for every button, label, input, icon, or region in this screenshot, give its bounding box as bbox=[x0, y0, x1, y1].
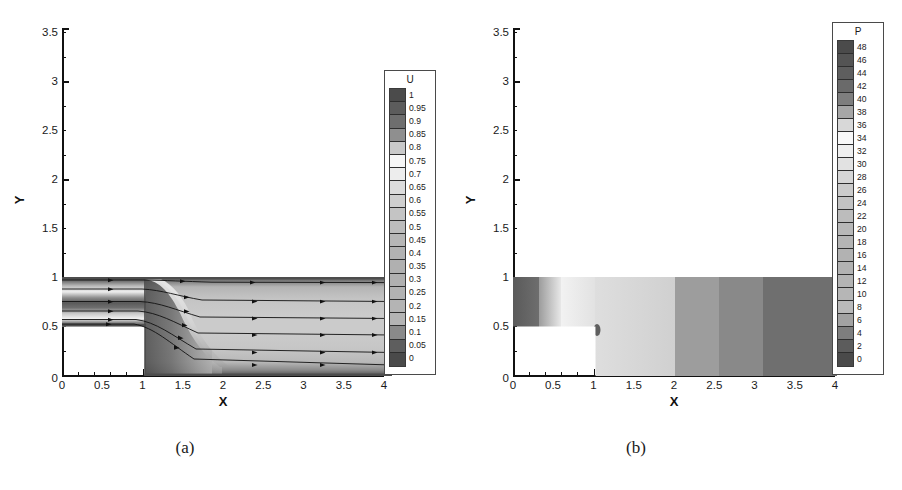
panel-a-x-axis-label: X bbox=[219, 394, 228, 409]
panel-a-ytick-2-5: 2.5 bbox=[34, 124, 58, 136]
colorbar-tick-label: 0.8 bbox=[409, 142, 421, 152]
panel-b-xtick-4: 4 bbox=[832, 379, 838, 391]
colorbar-tick-label: 46 bbox=[857, 55, 867, 65]
colorbar-swatch bbox=[390, 89, 405, 102]
colorbar-tick-label: 0 bbox=[857, 354, 862, 364]
colorbar-tick-label: 8 bbox=[857, 302, 862, 312]
colorbar-swatch bbox=[390, 274, 405, 287]
colorbar-tick-label: 2 bbox=[857, 341, 862, 351]
colorbar-tick-label: 34 bbox=[857, 133, 867, 143]
colorbar-swatch bbox=[390, 260, 405, 273]
panel-a-ytick-3: 3 bbox=[34, 75, 58, 87]
colorbar-swatch bbox=[838, 340, 853, 353]
colorbar-swatch bbox=[390, 221, 405, 234]
panel-b-ytick-1-5: 1.5 bbox=[485, 222, 509, 234]
panel-a-caption: (a) bbox=[176, 438, 195, 458]
colorbar-tick-label: 20 bbox=[857, 224, 867, 234]
colorbar-swatch bbox=[838, 132, 853, 145]
panel-a-xtick-3-5: 3.5 bbox=[336, 379, 352, 391]
colorbar-tick-label: 6 bbox=[857, 315, 862, 325]
colorbar-tick-label: 0.65 bbox=[409, 182, 426, 192]
colorbar-tick-label: 48 bbox=[857, 42, 867, 52]
colorbar-tick-label: 0.3 bbox=[409, 274, 421, 284]
colorbar-tick-label: 0.2 bbox=[409, 301, 421, 311]
colorbar-swatch bbox=[838, 119, 853, 132]
panel-b-ytick-0-5: 0.5 bbox=[485, 320, 509, 332]
panel-b-xtick-3: 3 bbox=[751, 379, 757, 391]
panel-b-xtick-0-5: 0.5 bbox=[545, 379, 561, 391]
panel-a-xtick-1-5: 1.5 bbox=[175, 379, 191, 391]
colorbar-swatch bbox=[838, 223, 853, 236]
colorbar-tick-label: 30 bbox=[857, 159, 867, 169]
colorbar-swatch bbox=[390, 195, 405, 208]
colorbar-swatch bbox=[838, 197, 853, 210]
colorbar-tick-label: 26 bbox=[857, 185, 867, 195]
colorbar-swatch bbox=[838, 67, 853, 80]
panel-b-x-axis-label: X bbox=[670, 394, 679, 409]
colorbar-swatch bbox=[390, 326, 405, 339]
colorbar-tick-label: 0.55 bbox=[409, 208, 426, 218]
colorbar-tick-label: 0.5 bbox=[409, 222, 421, 232]
panel-b-xtick-1-5: 1.5 bbox=[626, 379, 642, 391]
colorbar-tick-label: 0.4 bbox=[409, 248, 421, 258]
colorbar-tick-label: 0.6 bbox=[409, 195, 421, 205]
colorbar-tick-label: 0.05 bbox=[409, 340, 426, 350]
colorbar-tick-label: 0.15 bbox=[409, 314, 426, 324]
panel-a-y-axis-label: Y bbox=[12, 196, 27, 205]
colorbar-tick-label: 42 bbox=[857, 81, 867, 91]
panel-b-xtick-3-5: 3.5 bbox=[787, 379, 803, 391]
colorbar-tick-label: 0.1 bbox=[409, 327, 421, 337]
colorbar-swatch bbox=[838, 210, 853, 223]
colorbar-swatch bbox=[390, 313, 405, 326]
panel-b-colorbar-title: P bbox=[833, 26, 883, 37]
panel-b: 0 0.5 1 1.5 2 2.5 3 3.5 bbox=[451, 0, 902, 490]
panel-b-ytick-1: 1 bbox=[485, 271, 509, 283]
colorbar-tick-label: 12 bbox=[857, 276, 867, 286]
colorbar-tick-label: 0.85 bbox=[409, 129, 426, 139]
colorbar-tick-label: 1 bbox=[409, 90, 414, 100]
panel-b-ytick-0: 0 bbox=[485, 372, 509, 384]
colorbar-tick-label: 44 bbox=[857, 68, 867, 78]
colorbar-swatch bbox=[838, 145, 853, 158]
colorbar-tick-label: 0.75 bbox=[409, 156, 426, 166]
colorbar-tick-label: 16 bbox=[857, 250, 867, 260]
colorbar-tick-label: 0.95 bbox=[409, 103, 426, 113]
colorbar-swatch bbox=[390, 142, 405, 155]
colorbar-tick-label: 10 bbox=[857, 289, 867, 299]
panel-b-contour-field bbox=[513, 277, 837, 376]
colorbar-tick-label: 0.9 bbox=[409, 116, 421, 126]
panel-a-xtick-2: 2 bbox=[220, 379, 226, 391]
panel-b-xtick-1: 1 bbox=[590, 379, 596, 391]
colorbar-swatch bbox=[838, 93, 853, 106]
panel-a-ytick-1: 1 bbox=[34, 271, 58, 283]
panel-b-xtick-2-5: 2.5 bbox=[706, 379, 722, 391]
colorbar-tick-label: 18 bbox=[857, 237, 867, 247]
panel-b-colorbar: P 48464442403836343230282624222018161412… bbox=[832, 22, 884, 375]
colorbar-swatch bbox=[838, 41, 853, 54]
panel-a-ytick-0-5: 0.5 bbox=[34, 320, 58, 332]
panel-b-ytick-2: 2 bbox=[485, 173, 509, 185]
panel-a-colorbar-title: U bbox=[385, 74, 435, 85]
colorbar-swatch bbox=[390, 247, 405, 260]
colorbar-tick-label: 38 bbox=[857, 107, 867, 117]
colorbar-swatch bbox=[838, 327, 853, 340]
panel-b-ytick-2-5: 2.5 bbox=[485, 124, 509, 136]
colorbar-tick-label: 14 bbox=[857, 263, 867, 273]
colorbar-swatch bbox=[838, 106, 853, 119]
panel-a-ytick-3-5: 3.5 bbox=[34, 26, 58, 38]
colorbar-swatch bbox=[838, 353, 853, 366]
colorbar-swatch bbox=[390, 287, 405, 300]
colorbar-swatch bbox=[390, 155, 405, 168]
colorbar-tick-label: 0 bbox=[409, 353, 414, 363]
colorbar-tick-label: 0.45 bbox=[409, 235, 426, 245]
panel-a-colorbar-swatches bbox=[389, 88, 406, 367]
panel-b-colorbar-swatches bbox=[837, 40, 854, 367]
panel-a-xtick-2-5: 2.5 bbox=[255, 379, 271, 391]
panel-a-ytick-2: 2 bbox=[34, 173, 58, 185]
colorbar-tick-label: 24 bbox=[857, 198, 867, 208]
colorbar-tick-label: 32 bbox=[857, 146, 867, 156]
panel-b-y-axis-label: Y bbox=[463, 196, 478, 205]
colorbar-swatch bbox=[390, 115, 405, 128]
panel-b-ytick-3: 3 bbox=[485, 75, 509, 87]
colorbar-swatch bbox=[838, 275, 853, 288]
